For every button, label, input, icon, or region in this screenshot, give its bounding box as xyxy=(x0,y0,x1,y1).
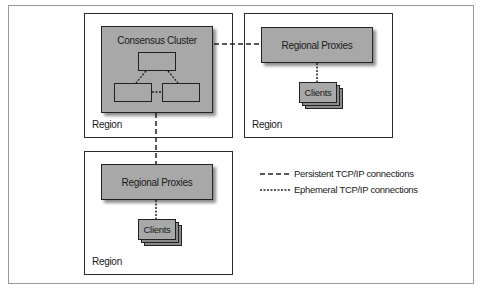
ephemeral-node-top-to-left xyxy=(136,71,146,83)
connection-lines xyxy=(0,0,481,289)
legend-persistent-label: Persistent TCP/IP connections xyxy=(294,168,414,179)
legend-ephemeral-label: Ephemeral TCP/IP connections xyxy=(294,184,418,195)
ephemeral-node-top-to-right xyxy=(168,71,178,83)
